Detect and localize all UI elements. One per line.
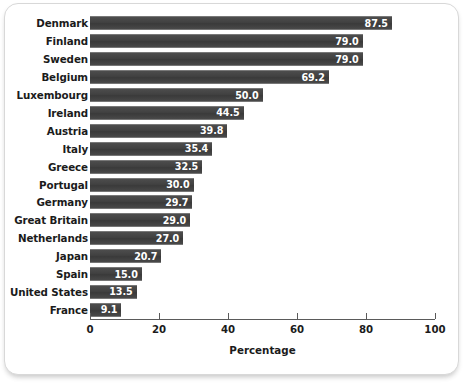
category-label: Portugal — [39, 179, 88, 191]
category-label: Denmark — [36, 17, 88, 29]
bar: 44.5 — [90, 106, 244, 119]
category-label: United States — [10, 286, 88, 298]
bar: 50.0 — [90, 89, 263, 102]
bar: 29.0 — [90, 214, 190, 227]
category-label: Great Britain — [14, 214, 88, 226]
category-label: Finland — [46, 35, 88, 47]
category-label: Belgium — [41, 71, 88, 83]
bar-value-label: 79.0 — [335, 36, 358, 47]
bar: 39.8 — [90, 124, 227, 137]
bar-row: Denmark87.5 — [5, 15, 460, 33]
x-axis-tick — [297, 313, 298, 319]
bar-row: Greece32.5 — [5, 158, 460, 176]
bar: 20.7 — [90, 250, 161, 263]
bar: 9.1 — [90, 303, 121, 316]
bar-value-label: 87.5 — [365, 18, 388, 29]
x-axis-tick — [159, 313, 160, 319]
bar-row: Italy35.4 — [5, 140, 460, 158]
bar: 35.4 — [90, 142, 212, 155]
bar-value-label: 39.8 — [200, 125, 223, 136]
x-axis-tick — [228, 313, 229, 319]
bar-value-label: 27.0 — [156, 233, 179, 244]
bar: 30.0 — [90, 178, 194, 191]
bar-row: Belgium69.2 — [5, 68, 460, 86]
bar: 13.5 — [90, 285, 137, 298]
x-axis-tick-label: 0 — [86, 324, 93, 335]
bar: 87.5 — [90, 17, 392, 30]
x-axis-tick-label: 40 — [221, 324, 235, 335]
bar-value-label: 30.0 — [166, 179, 189, 190]
bar-value-label: 13.5 — [109, 286, 132, 297]
bar-value-label: 50.0 — [235, 90, 258, 101]
bar-value-label: 69.2 — [301, 72, 324, 83]
bar: 15.0 — [90, 268, 142, 281]
bar-value-label: 35.4 — [185, 143, 208, 154]
category-label: Ireland — [48, 107, 88, 119]
bar-row: Japan20.7 — [5, 247, 460, 265]
bar-row: Netherlands27.0 — [5, 229, 460, 247]
bar: 69.2 — [90, 71, 329, 84]
bar-row: Sweden79.0 — [5, 50, 460, 68]
bar-row: Luxembourg50.0 — [5, 86, 460, 104]
bar-row: Finland79.0 — [5, 32, 460, 50]
x-axis-tick-label: 80 — [359, 324, 373, 335]
bar-chart-plot-area: Denmark87.5Finland79.0Sweden79.0Belgium6… — [5, 4, 460, 376]
bar: 29.7 — [90, 196, 192, 209]
bar-value-label: 44.5 — [216, 107, 239, 118]
bar-row: United States13.5 — [5, 283, 460, 301]
category-label: Austria — [47, 125, 88, 137]
bar-row: Austria39.8 — [5, 122, 460, 140]
bar-row: Portugal30.0 — [5, 176, 460, 194]
bar: 27.0 — [90, 232, 183, 245]
x-axis-tick — [366, 313, 367, 319]
category-label: Spain — [56, 268, 88, 280]
x-axis-line — [90, 319, 435, 320]
bar-row: Germany29.7 — [5, 194, 460, 212]
bar: 79.0 — [90, 35, 363, 48]
category-label: Sweden — [43, 53, 88, 65]
category-label: Germany — [36, 196, 88, 208]
bar-row: Great Britain29.0 — [5, 211, 460, 229]
x-axis-tick-label: 20 — [152, 324, 166, 335]
bar-row: Ireland44.5 — [5, 104, 460, 122]
x-axis-tick — [435, 313, 436, 319]
category-label: Italy — [63, 143, 88, 155]
x-axis-title: Percentage — [90, 344, 435, 356]
chart-card: Denmark87.5Finland79.0Sweden79.0Belgium6… — [4, 3, 459, 375]
category-label: Netherlands — [18, 232, 88, 244]
bar-value-label: 79.0 — [335, 54, 358, 65]
bar-value-label: 32.5 — [175, 161, 198, 172]
bar-value-label: 20.7 — [134, 251, 157, 262]
bar-value-label: 29.7 — [165, 197, 188, 208]
category-label: Greece — [48, 161, 88, 173]
x-axis-tick-label: 100 — [424, 324, 445, 335]
x-axis-tick-label: 60 — [290, 324, 304, 335]
bar-value-label: 29.0 — [163, 215, 186, 226]
bar-value-label: 9.1 — [101, 304, 118, 315]
category-label: Luxembourg — [17, 89, 88, 101]
category-label: France — [50, 304, 88, 316]
category-label: Japan — [56, 250, 88, 262]
x-axis-tick — [90, 313, 91, 319]
bar: 32.5 — [90, 160, 202, 173]
bar-row: France9.1 — [5, 301, 460, 319]
bar: 79.0 — [90, 53, 363, 66]
bar-row: Spain15.0 — [5, 265, 460, 283]
bar-value-label: 15.0 — [114, 269, 137, 280]
